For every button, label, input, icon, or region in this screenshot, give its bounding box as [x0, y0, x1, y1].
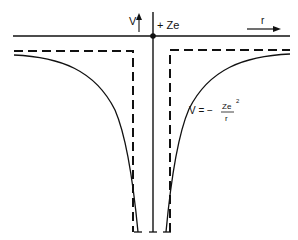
svg-text:r: r — [225, 114, 228, 123]
coulomb-curve — [14, 54, 290, 232]
v-axis-label: V — [129, 15, 137, 27]
r-arrow-icon — [247, 26, 281, 32]
svg-text:2: 2 — [236, 98, 240, 104]
v-arrow-icon — [136, 13, 142, 32]
square-well-dashed — [14, 50, 290, 232]
formula-label: V = − Ze r 2 — [189, 98, 240, 123]
potential-diagram: V + Ze r V = − Ze r 2 — [0, 0, 298, 240]
svg-text:V = −: V = − — [189, 105, 213, 116]
svg-text:Ze: Ze — [222, 102, 232, 111]
nucleus-label: + Ze — [157, 19, 179, 31]
nucleus-dot — [150, 33, 156, 39]
r-axis-label: r — [261, 15, 265, 26]
